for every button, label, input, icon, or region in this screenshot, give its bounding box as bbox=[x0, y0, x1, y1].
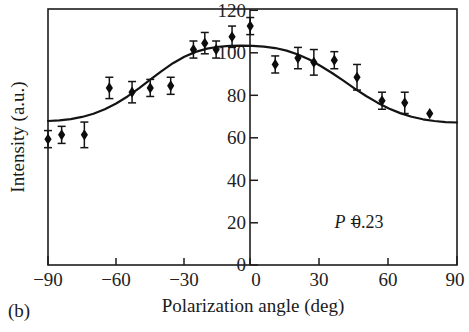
data-point bbox=[271, 56, 279, 73]
y-tick-label-40: 40 bbox=[227, 170, 246, 191]
marker-diamond bbox=[247, 20, 254, 31]
marker-diamond bbox=[272, 59, 279, 70]
marker-diamond bbox=[81, 129, 88, 140]
marker-diamond bbox=[401, 97, 408, 108]
data-point bbox=[128, 82, 136, 103]
data-point bbox=[246, 18, 254, 35]
y-tick-label-60: 60 bbox=[227, 127, 246, 148]
y-axis-title: Intensity (a.u.) bbox=[7, 81, 29, 192]
data-point bbox=[167, 77, 175, 94]
data-point bbox=[310, 50, 318, 76]
data-point bbox=[330, 52, 338, 69]
x-tick-label-minus90: −90 bbox=[33, 269, 63, 290]
data-point bbox=[294, 47, 302, 68]
y-tick-label-80: 80 bbox=[227, 85, 246, 106]
x-axis-tick-labels: −90 −60 −30 0 30 60 90 bbox=[33, 269, 464, 290]
marker-diamond bbox=[167, 80, 174, 91]
plot-frame bbox=[48, 9, 457, 265]
x-axis-ticks bbox=[48, 256, 457, 265]
p-value-equals-sign: = bbox=[350, 212, 360, 232]
data-point bbox=[105, 77, 113, 98]
x-axis-title: Polarization angle (deg) bbox=[162, 295, 345, 317]
y-axis-ticks bbox=[250, 10, 258, 265]
data-point bbox=[80, 122, 88, 148]
marker-diamond bbox=[201, 38, 208, 49]
data-point bbox=[44, 131, 52, 148]
y-tick-label-20: 20 bbox=[227, 212, 246, 233]
x-tick-label-minus60: −60 bbox=[101, 269, 131, 290]
x-tick-label-0: 0 bbox=[251, 269, 261, 290]
panel-label: (b) bbox=[8, 300, 30, 322]
x-tick-label-60: 60 bbox=[379, 269, 398, 290]
x-tick-label-90: 90 bbox=[446, 269, 465, 290]
marker-diamond bbox=[310, 57, 317, 68]
marker-diamond bbox=[44, 134, 51, 145]
y-tick-label-0: 0 bbox=[237, 254, 247, 275]
figure-panel-b: 120 100 80 60 40 20 0 −90 −60 −30 0 30 6… bbox=[0, 0, 469, 332]
x-tick-label-30: 30 bbox=[310, 269, 329, 290]
marker-diamond bbox=[426, 108, 433, 119]
p-value-symbol: P bbox=[334, 212, 346, 232]
marker-diamond bbox=[228, 31, 235, 42]
data-point bbox=[58, 126, 66, 143]
data-point bbox=[353, 64, 361, 90]
marker-diamond bbox=[331, 55, 338, 66]
p-value-annotation: P 0.23 = bbox=[334, 212, 384, 232]
marker-diamond bbox=[353, 72, 360, 83]
chart-canvas: 120 100 80 60 40 20 0 −90 −60 −30 0 30 6… bbox=[0, 0, 469, 332]
data-point bbox=[189, 41, 197, 58]
y-tick-label-120: 120 bbox=[218, 0, 247, 21]
marker-diamond bbox=[147, 82, 154, 93]
x-tick-label-minus30: −30 bbox=[169, 269, 199, 290]
data-point bbox=[401, 92, 409, 113]
marker-diamond bbox=[58, 129, 65, 140]
marker-diamond bbox=[106, 82, 113, 93]
data-point bbox=[426, 108, 433, 119]
